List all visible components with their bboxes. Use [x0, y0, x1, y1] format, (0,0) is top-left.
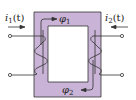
primary-terminal-top [8, 34, 11, 37]
primary-terminal-bottom [8, 73, 11, 76]
transformer-diagram: i1(t) i2(t) φ1 φ2 [0, 0, 136, 100]
secondary-terminal-top [120, 34, 123, 37]
flux-paths [41, 17, 93, 91]
secondary-terminal-bottom [120, 73, 123, 76]
i1-label: i1(t) [5, 12, 25, 25]
i2-label: i2(t) [105, 12, 125, 25]
